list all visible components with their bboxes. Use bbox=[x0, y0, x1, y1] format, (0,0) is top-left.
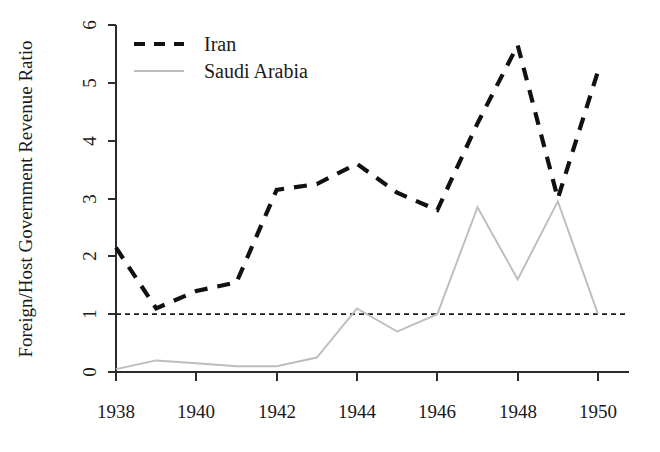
chart-figure: 0 1 2 3 4 5 6 Foreign/Host Government Re… bbox=[0, 0, 660, 452]
x-tick-label-1938: 1938 bbox=[97, 401, 135, 422]
x-axis-ticks bbox=[116, 372, 598, 381]
y-tick-label-0: 0 bbox=[79, 367, 100, 377]
legend-label-saudi-arabia: Saudi Arabia bbox=[204, 60, 308, 82]
series-line-saudi-arabia bbox=[116, 201, 598, 369]
chart-legend: Iran Saudi Arabia bbox=[134, 33, 308, 82]
x-tick-label-1944: 1944 bbox=[338, 401, 377, 422]
y-tick-label-5: 5 bbox=[79, 78, 100, 88]
x-tick-label-1948: 1948 bbox=[499, 401, 537, 422]
x-tick-label-1940: 1940 bbox=[177, 401, 215, 422]
y-tick-label-1: 1 bbox=[79, 309, 100, 319]
y-axis-title: Foreign/Host Government Revenue Ratio bbox=[15, 40, 36, 357]
x-tick-label-1950: 1950 bbox=[579, 401, 617, 422]
y-tick-label-6: 6 bbox=[79, 20, 100, 30]
y-tick-label-4: 4 bbox=[79, 136, 100, 146]
chart-svg: 0 1 2 3 4 5 6 Foreign/Host Government Re… bbox=[0, 0, 660, 452]
y-axis-ticks bbox=[108, 25, 116, 372]
x-tick-label-1946: 1946 bbox=[418, 401, 456, 422]
x-axis-tick-labels: 1938 1940 1942 1944 1946 1948 1950 bbox=[97, 401, 617, 422]
series-line-iran bbox=[116, 45, 598, 308]
y-tick-label-2: 2 bbox=[79, 251, 100, 261]
x-tick-label-1942: 1942 bbox=[258, 401, 296, 422]
y-axis-tick-labels: 0 1 2 3 4 5 6 bbox=[79, 20, 100, 377]
y-tick-label-3: 3 bbox=[79, 194, 100, 204]
legend-label-iran: Iran bbox=[204, 33, 236, 55]
